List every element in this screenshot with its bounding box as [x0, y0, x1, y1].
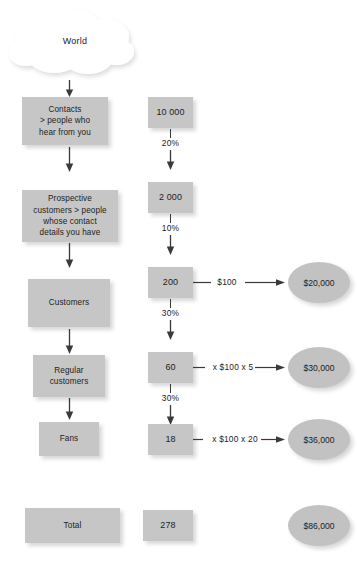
- revenue-amount: $20,000: [303, 278, 334, 288]
- total-count-box: 278: [143, 510, 193, 541]
- count-box-regular-customers: 60: [148, 352, 193, 383]
- stage-box-customers: Customers: [28, 279, 110, 327]
- revenue-amount: $36,000: [303, 435, 334, 445]
- arrow-customers-to-regular: [64, 329, 75, 354]
- stage-box-fans: Fans: [39, 422, 99, 456]
- count-value: 10 000: [156, 107, 184, 118]
- count-box-contacts: 10 000: [148, 97, 193, 128]
- stage-label: Prospective customers > people whose con…: [33, 193, 106, 239]
- conversion-rate-1: 20%: [148, 138, 193, 148]
- funnel-diagram: World Contacts > people who hear from yo…: [0, 0, 357, 563]
- revenue-amount: $30,000: [303, 363, 334, 373]
- conversion-rate-3: 30%: [148, 308, 193, 318]
- revenue-multiplier-2: x $100 x 5: [203, 362, 263, 372]
- total-revenue-ellipse: $86,000: [288, 505, 350, 546]
- total-amount: $86,000: [303, 521, 334, 531]
- count-box-customers: 200: [148, 267, 193, 298]
- connector-stub-4: [170, 384, 171, 393]
- arrow-contacts-to-prospective: [64, 147, 75, 172]
- stage-label: Contacts > people who hear from you: [39, 104, 91, 138]
- arrow-count-4-to-5: [165, 405, 176, 425]
- total-label-box: Total: [25, 508, 120, 543]
- total-label: Total: [64, 520, 82, 531]
- stage-label: Regular customers: [50, 365, 89, 388]
- arrow-regular-to-fans: [64, 398, 75, 420]
- conversion-rate-2: 10%: [148, 223, 193, 233]
- world-cloud: World: [6, 6, 144, 84]
- count-box-prospective: 2 000: [148, 182, 193, 213]
- arrow-world-to-contacts: [64, 80, 75, 97]
- arrow-count-1-to-2: [165, 150, 176, 170]
- world-label: World: [6, 36, 144, 46]
- conversion-rate-4: 30%: [148, 393, 193, 403]
- stage-box-prospective-customers: Prospective customers > people whose con…: [22, 190, 118, 242]
- count-value: 18: [165, 434, 175, 445]
- total-count: 278: [160, 520, 175, 531]
- revenue-ellipse-2: $30,000: [288, 347, 350, 388]
- stage-box-regular-customers: Regular customers: [33, 355, 105, 397]
- stage-label: Fans: [60, 433, 79, 444]
- arrow-prospective-to-customers: [64, 243, 75, 268]
- connector-stub-1: [170, 129, 171, 138]
- connector-stub-3: [170, 299, 171, 308]
- count-value: 200: [163, 277, 178, 288]
- revenue-multiplier-3: x $100 x 20: [201, 434, 269, 444]
- count-value: 2 000: [159, 192, 182, 203]
- revenue-ellipse-3: $36,000: [288, 419, 350, 460]
- connector-stub-2: [170, 214, 171, 223]
- revenue-multiplier-1: $100: [206, 277, 248, 287]
- arrow-count-2-to-3: [165, 235, 176, 255]
- revenue-ellipse-1: $20,000: [288, 262, 350, 303]
- count-box-fans: 18: [148, 424, 193, 455]
- stage-label: Customers: [49, 297, 89, 308]
- stage-box-contacts: Contacts > people who hear from you: [22, 97, 108, 145]
- arrow-count-3-to-4: [165, 320, 176, 340]
- count-value: 60: [165, 362, 175, 373]
